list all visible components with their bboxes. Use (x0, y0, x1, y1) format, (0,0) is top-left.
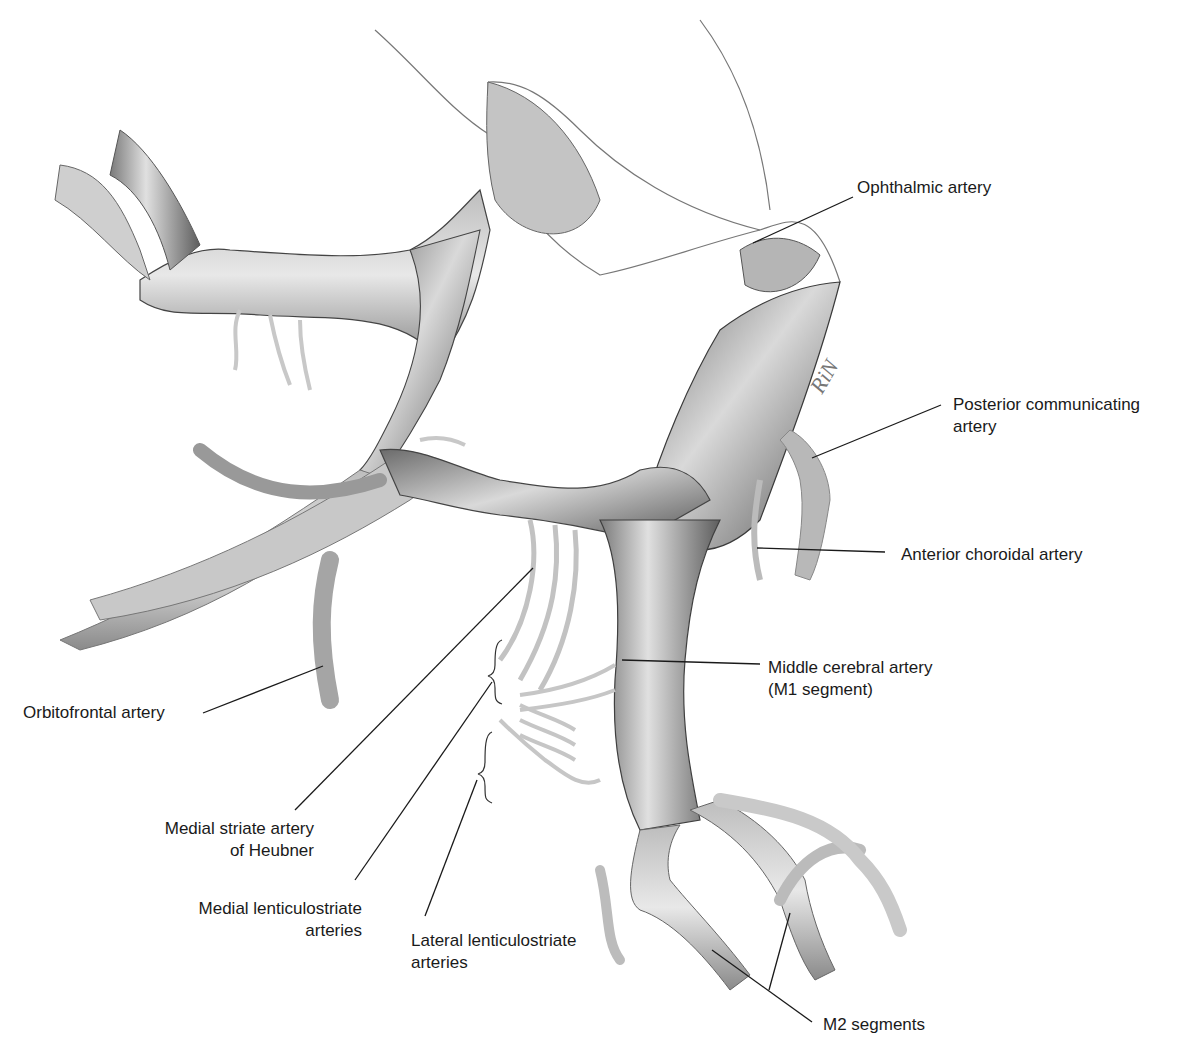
leader-medial-lenticulostriate (355, 682, 492, 880)
orbitofrontal-artery-vessel (322, 560, 330, 700)
medial-lenticulostriate-vessels (500, 520, 576, 690)
label-orbitofrontal-artery: Orbitofrontal artery (23, 702, 165, 723)
ophthalmic-origin (740, 238, 820, 292)
label-mca-line1: Middle cerebral artery (768, 657, 932, 678)
leader-m2-b (769, 913, 790, 990)
label-medial-lenticulostriate-line1: Medial lenticulostriate (170, 898, 362, 919)
ant-choroidal-artery (754, 480, 760, 580)
posterior-communicating-artery (780, 430, 830, 580)
medial-lenticulostriate-brace (488, 640, 502, 704)
frontal-branch-3 (200, 450, 380, 492)
label-anterior-choroidal-artery: Anterior choroidal artery (901, 544, 1082, 565)
label-lateral-lenticulostriate-line2: arteries (411, 952, 468, 973)
middle-cerebral-artery-m1 (600, 520, 720, 830)
label-m2-segments: M2 segments (823, 1014, 925, 1035)
leader-orbitofrontal (203, 666, 323, 713)
label-lateral-lenticulostriate-line1: Lateral lenticulostriate (411, 930, 576, 951)
lateral-lenticulostriate-vessels (500, 665, 615, 783)
label-posterior-communicating-artery-line2: artery (953, 416, 996, 437)
label-ophthalmic-artery: Ophthalmic artery (857, 177, 991, 198)
leader-lateral-lenticulostriate (425, 780, 477, 916)
label-mca-line2: (M1 segment) (768, 679, 873, 700)
label-heubner-line1: Medial striate artery (134, 818, 314, 839)
label-posterior-communicating-artery-line1: Posterior communicating (953, 394, 1140, 415)
mca-anatomy-illustration: RiN (0, 0, 1199, 1053)
m2-small-branch (600, 870, 620, 960)
leader-ophthalmic (753, 197, 853, 243)
clinoid-process (487, 82, 600, 234)
label-medial-lenticulostriate-line2: arteries (170, 920, 362, 941)
label-heubner-line2: of Heubner (134, 840, 314, 861)
lateral-lenticulostriate-brace (478, 732, 492, 803)
leader-pcom (812, 405, 941, 458)
